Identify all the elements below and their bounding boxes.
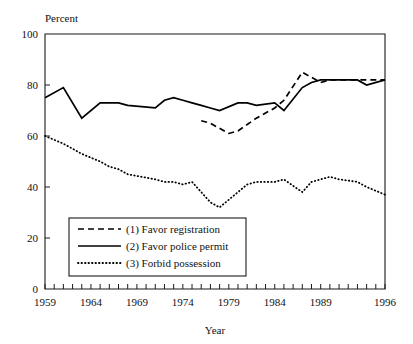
x-tick-label: 1984 — [264, 296, 287, 308]
legend-label-1: (1) Favor registration — [126, 223, 221, 236]
series-line-2 — [45, 80, 385, 118]
line-chart: Percent 020406080100 1959196419691974197… — [0, 0, 413, 344]
y-tick-label: 40 — [27, 181, 39, 193]
x-tick-label: 1964 — [80, 296, 103, 308]
legend-label-3: (3) Forbid possession — [126, 257, 221, 270]
chart-svg: Percent 020406080100 1959196419691974197… — [0, 0, 413, 344]
y-tick-label: 60 — [27, 130, 39, 142]
y-axis-title: Percent — [45, 12, 78, 24]
x-tick-label: 1974 — [172, 296, 195, 308]
y-tick-label: 20 — [27, 232, 39, 244]
chart-legend: (1) Favor registration(2) Favor police p… — [69, 218, 246, 276]
y-tick-label: 100 — [22, 28, 39, 40]
x-tick-label: 1989 — [310, 296, 333, 308]
x-tick-label: 1969 — [126, 296, 149, 308]
x-axis-ticks: 19591964196919741979198419891996 — [34, 284, 397, 308]
x-axis-title-label: Year — [205, 324, 226, 336]
x-tick-label: 1979 — [218, 296, 241, 308]
y-axis-title-label: Percent — [45, 12, 78, 24]
series-line-3 — [45, 136, 385, 207]
y-tick-label: 80 — [27, 79, 39, 91]
series-lines — [45, 72, 385, 207]
x-tick-label: 1996 — [374, 296, 397, 308]
legend-label-2: (2) Favor police permit — [126, 240, 228, 253]
y-tick-label: 0 — [33, 283, 39, 295]
x-axis-title: Year — [205, 324, 226, 336]
series-line-1 — [201, 72, 385, 133]
y-axis-ticks: 020406080100 — [22, 28, 51, 295]
x-tick-label: 1959 — [34, 296, 57, 308]
